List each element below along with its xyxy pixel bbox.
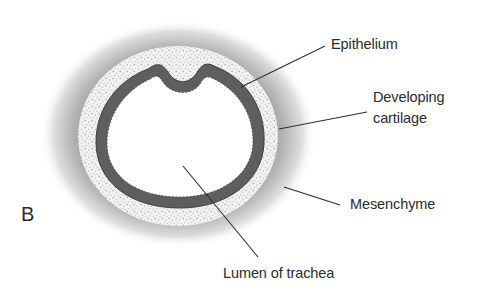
trachea-cross-section-diagram [0, 0, 487, 302]
cartilage-label-line1: Developing [373, 89, 445, 106]
cartilage-label-line2: cartilage [373, 110, 427, 127]
mesenchyme-label: Mesenchyme [350, 196, 435, 213]
lumen-label: Lumen of trachea [223, 265, 334, 282]
panel-letter: B [21, 203, 34, 226]
lumen [107, 76, 253, 197]
epithelium-label: Epithelium [331, 36, 398, 53]
